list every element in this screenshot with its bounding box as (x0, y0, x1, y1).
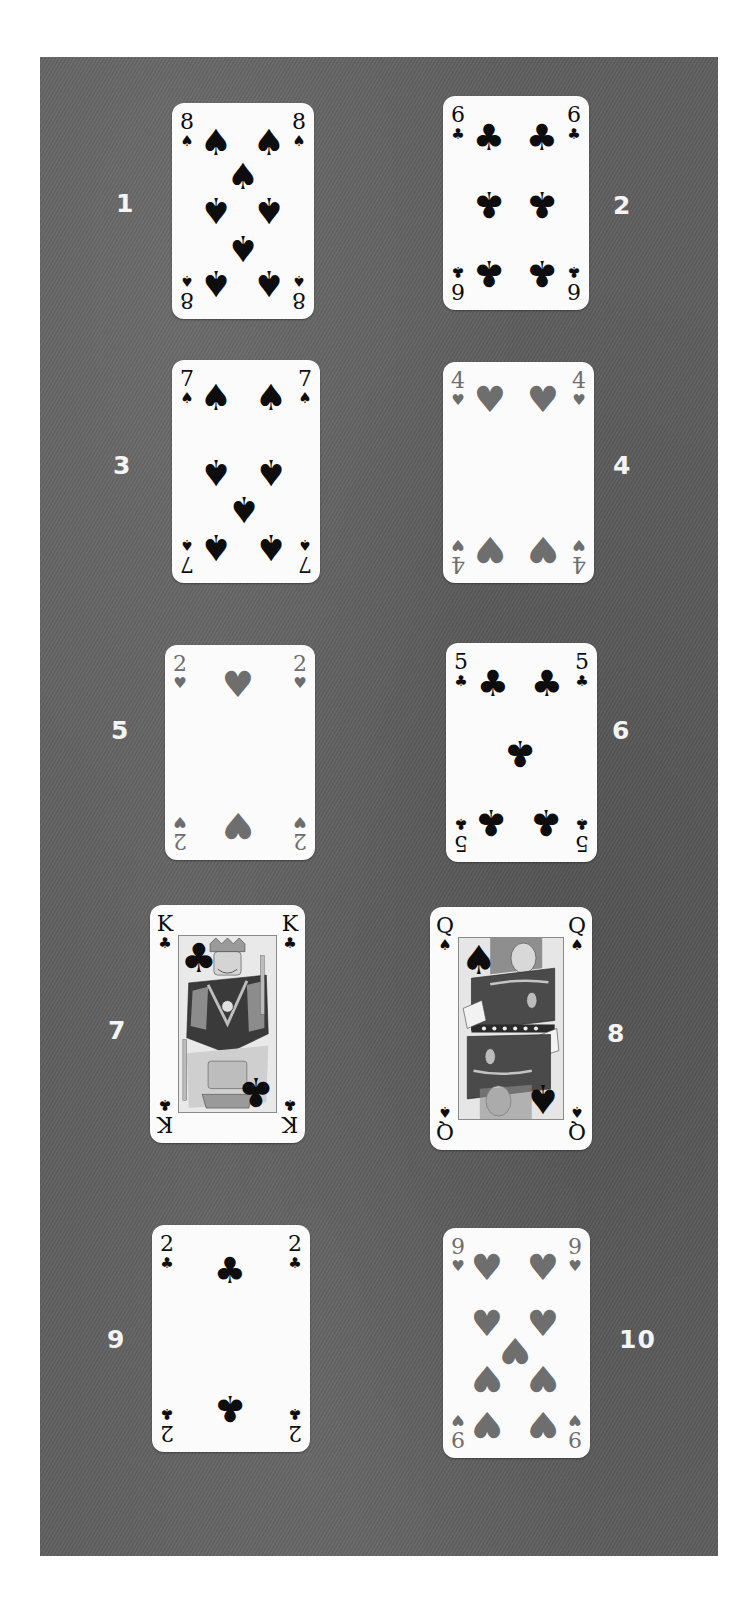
club-icon: ♣ (471, 804, 511, 840)
heart-icon: ♥ (467, 1360, 507, 1396)
corner-index: 7♠ (294, 537, 316, 575)
spade-icon: ♠ (251, 454, 291, 490)
heart-icon: ♥ (568, 1412, 581, 1427)
playing-card-king-of-clubs[interactable]: K♣ K♣ K♣ K♣ ♣ ♣ (150, 905, 305, 1143)
club-icon: ♣ (527, 666, 567, 702)
club-icon: ♣ (575, 674, 588, 689)
corner-index: K♣ (279, 913, 301, 951)
playing-card-2-of-hearts[interactable]: 2♥ 2♥ 2♥ 2♥ ♥ ♥ (165, 645, 315, 860)
king-figure-illustration: ♣ ♣ (178, 935, 277, 1113)
corner-index: 5♣ (450, 651, 472, 689)
corner-index: 4♥ (447, 537, 469, 575)
club-icon: ♣ (473, 666, 513, 702)
club-icon: ♣ (522, 255, 562, 291)
club-icon: ♣ (283, 936, 296, 951)
heart-icon: ♥ (451, 1259, 464, 1274)
spade-icon: ♠ (196, 454, 236, 490)
club-icon: ♣ (469, 255, 509, 291)
club-icon: ♣ (522, 120, 562, 156)
playing-card-2-of-clubs[interactable]: 2♣ 2♣ 2♣ 2♣ ♣ ♣ (152, 1225, 310, 1452)
corner-index: 2♥ (289, 653, 311, 691)
heart-icon: ♥ (523, 382, 563, 418)
club-icon: ♣ (288, 1406, 301, 1421)
playing-card-9-of-hearts[interactable]: 9♥ 9♥ 9♥ 9♥ ♥ ♥ ♥ ♥ ♥ ♥ ♥ ♥ ♥ (443, 1228, 590, 1458)
club-icon: ♣ (469, 120, 509, 156)
corner-index: 9♥ (447, 1236, 469, 1274)
corner-index: 8♠ (288, 111, 310, 149)
club-icon: ♣ (522, 186, 562, 222)
club-icon: ♣ (526, 804, 566, 840)
card-number-label-8: 8 (607, 1020, 625, 1048)
playing-card-8-of-spades[interactable]: 8♠ 8♠ 8♠ 8♠ ♠ ♠ ♠ ♠ ♠ ♠ ♠ ♠ (172, 103, 314, 319)
corner-index: 6♣ (563, 264, 585, 302)
corner-index: K♣ (279, 1097, 301, 1135)
spade-icon: ♠ (251, 529, 291, 565)
spade-icon: ♠ (570, 938, 583, 953)
heart-icon: ♥ (467, 1250, 507, 1286)
spade-icon: ♠ (180, 391, 193, 406)
club-icon: ♣ (454, 674, 467, 689)
heart-icon: ♥ (572, 393, 585, 408)
corner-index: 2♥ (289, 814, 311, 852)
card-number-label-9: 9 (107, 1326, 125, 1354)
club-icon: ♣ (575, 816, 588, 831)
playing-card-6-of-clubs[interactable]: 6♣ 6♣ 6♣ 6♣ ♣ ♣ ♣ ♣ ♣ ♣ (443, 96, 589, 310)
spade-icon: ♠ (292, 273, 305, 288)
corner-index: 9♥ (447, 1412, 469, 1450)
heart-icon: ♥ (173, 676, 186, 691)
heart-icon: ♥ (470, 531, 510, 567)
spade-icon: ♠ (196, 265, 236, 301)
corner-index: Q♠ (566, 1104, 588, 1142)
corner-index: Q♠ (434, 1104, 456, 1142)
corner-index: 9♥ (564, 1236, 586, 1274)
spade-icon: ♠ (249, 265, 289, 301)
card-number-label-2: 2 (613, 192, 631, 220)
playing-card-4-of-hearts[interactable]: 4♥ 4♥ 4♥ 4♥ ♥ ♥ ♥ ♥ (443, 362, 594, 583)
heart-icon: ♥ (470, 382, 510, 418)
card-number-label-5: 5 (111, 717, 129, 745)
playing-card-queen-of-spades[interactable]: Q♠ Q♠ Q♠ Q♠ ♠ ♠ (430, 907, 592, 1150)
spade-icon: ♠ (438, 938, 451, 953)
club-icon: ♣ (567, 264, 580, 279)
club-icon: ♣ (469, 186, 509, 222)
club-icon: ♣ (238, 1072, 274, 1112)
playing-card-7-of-spades[interactable]: 7♠ 7♠ 7♠ 7♠ ♠ ♠ ♠ ♠ ♠ ♠ ♠ (172, 360, 320, 583)
spade-icon: ♠ (570, 1104, 583, 1119)
heart-icon: ♥ (293, 676, 306, 691)
queen-figure-illustration: ♠ ♠ (458, 937, 564, 1120)
club-icon: ♣ (160, 1256, 173, 1271)
heart-icon: ♥ (451, 393, 464, 408)
club-icon: ♣ (160, 1406, 173, 1421)
club-icon: ♣ (567, 127, 580, 142)
spade-icon: ♠ (298, 537, 311, 552)
spade-icon: ♠ (461, 940, 497, 980)
playing-card-5-of-clubs[interactable]: 5♣ 5♣ 5♣ 5♣ ♣ ♣ ♣ ♣ ♣ (446, 643, 597, 862)
corner-index: 7♠ (176, 537, 198, 575)
club-icon: ♣ (181, 938, 217, 978)
heart-icon: ♥ (451, 1412, 464, 1427)
spade-icon: ♠ (298, 391, 311, 406)
heart-icon: ♥ (173, 814, 186, 829)
spade-icon: ♠ (223, 230, 263, 266)
heart-icon: ♥ (572, 537, 585, 552)
heart-icon: ♥ (451, 537, 464, 552)
spade-icon: ♠ (196, 529, 236, 565)
corner-index: 2♣ (284, 1406, 306, 1444)
card-number-label-4: 4 (613, 452, 631, 480)
card-number-label-7: 7 (108, 1017, 126, 1045)
club-icon: ♣ (210, 1390, 250, 1426)
heart-icon: ♥ (523, 1406, 563, 1442)
corner-index: Q♠ (566, 915, 588, 953)
corner-index: 4♥ (568, 537, 590, 575)
spade-icon: ♠ (292, 134, 305, 149)
spade-icon: ♠ (196, 192, 236, 228)
corner-index: 6♣ (447, 104, 469, 142)
corner-index: 2♥ (169, 814, 191, 852)
corner-index: K♣ (154, 913, 176, 951)
card-number-label-10: 10 (619, 1326, 656, 1354)
card-number-label-6: 6 (612, 717, 630, 745)
spade-icon: ♠ (180, 134, 193, 149)
corner-index: 5♣ (450, 816, 472, 854)
club-icon: ♣ (283, 1097, 296, 1112)
corner-index: 6♣ (563, 104, 585, 142)
